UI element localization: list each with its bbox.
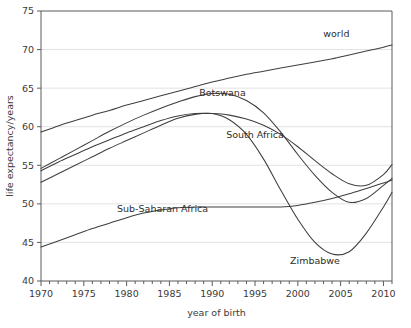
y-tick-label: 70	[22, 44, 34, 55]
y-tick-label: 45	[22, 237, 34, 248]
y-tick-label: 75	[22, 5, 34, 16]
series-label-zimbabwe: Zimbabwe	[290, 255, 340, 266]
x-tick-label: 1985	[157, 288, 181, 299]
series-line-sub-saharan-africa	[41, 180, 392, 247]
y-tick-label: 40	[22, 275, 34, 286]
x-tick-label: 1995	[243, 288, 267, 299]
series-line-south-africa	[41, 113, 392, 186]
series-label-south-africa: South Africa	[226, 129, 284, 140]
x-tick-group: 197019751980198519901995200020052010	[29, 281, 396, 299]
y-tick-label: 60	[22, 121, 34, 132]
x-axis-title: year of birth	[187, 307, 246, 318]
life-expectancy-chart: 4045505560657075 19701975198019851990199…	[0, 0, 411, 328]
x-tick-label: 2000	[286, 288, 310, 299]
series-label-sub-saharan-africa: Sub-Saharan Africa	[117, 203, 208, 214]
series-labels-group: worldBotswanaSouth AfricaSub-Saharan Afr…	[117, 28, 349, 266]
series-label-botswana: Botswana	[199, 87, 245, 98]
x-tick-label: 1980	[115, 288, 139, 299]
series-lines-group	[41, 45, 392, 255]
y-tick-label: 55	[22, 160, 34, 171]
x-tick-label: 2010	[371, 288, 395, 299]
x-tick-label: 1970	[29, 288, 53, 299]
x-tick-label: 2005	[329, 288, 353, 299]
y-axis-title: life expectancy/years	[4, 95, 15, 197]
chart-canvas: 4045505560657075 19701975198019851990199…	[0, 0, 411, 328]
series-label-world: world	[323, 28, 349, 39]
y-tick-label: 50	[22, 198, 34, 209]
x-tick-label: 1990	[200, 288, 224, 299]
series-line-botswana	[41, 93, 392, 202]
x-tick-label: 1975	[72, 288, 96, 299]
series-line-zimbabwe	[41, 113, 392, 255]
y-tick-label: 65	[22, 83, 34, 94]
y-tick-group: 4045505560657075	[22, 5, 41, 286]
